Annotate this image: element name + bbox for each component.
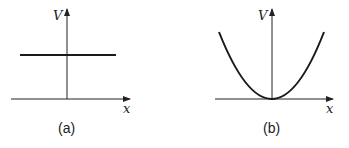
panel-b: V x (215, 8, 334, 116)
y-axis-label-b: V (258, 8, 269, 23)
diagram-canvas: V x V x (0, 0, 349, 148)
caption-b: (b) (263, 120, 280, 136)
panel-a: V x (11, 8, 131, 116)
x-axis-label-b: x (326, 101, 334, 116)
caption-a: (a) (58, 120, 75, 136)
y-axis-label-a: V (53, 8, 64, 23)
x-axis-label-a: x (123, 101, 131, 116)
